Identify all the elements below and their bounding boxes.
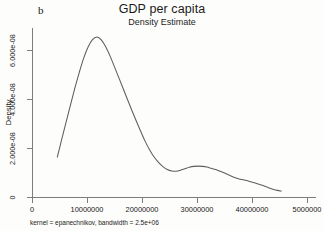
y-tick-label: 0: [8, 183, 17, 213]
chart-title: GDP per capita: [0, 2, 324, 16]
y-axis-title: Density: [4, 83, 13, 143]
chart-subtitle: Density Estimate: [0, 17, 324, 27]
y-axis-line: [32, 28, 33, 198]
x-tick-label: 0: [30, 205, 34, 214]
density-plot-figure: b GDP per capita Density Estimate 0 2.00…: [0, 0, 324, 231]
x-tick-label: 40000000: [236, 205, 269, 214]
x-tick-mark: [32, 198, 33, 203]
y-tick-mark: [27, 148, 32, 149]
kernel-footnote: kernel = epanechnikov, bandwidth = 2.5e+…: [30, 219, 159, 226]
x-tick-mark: [142, 198, 143, 203]
x-tick-label: 10000000: [71, 205, 104, 214]
x-tick-label: 5000000: [293, 205, 322, 214]
x-tick-mark: [197, 198, 198, 203]
x-tick-mark: [307, 198, 308, 203]
y-tick-mark: [27, 50, 32, 51]
y-tick-label: 6.000e-08: [8, 31, 17, 71]
x-tick-label: 30000000: [181, 205, 214, 214]
x-axis-line: [32, 197, 316, 198]
x-tick-mark: [252, 198, 253, 203]
x-tick-label: 20000000: [126, 205, 159, 214]
density-curve-path: [57, 37, 281, 191]
x-tick-mark: [87, 198, 88, 203]
y-tick-mark: [27, 99, 32, 100]
